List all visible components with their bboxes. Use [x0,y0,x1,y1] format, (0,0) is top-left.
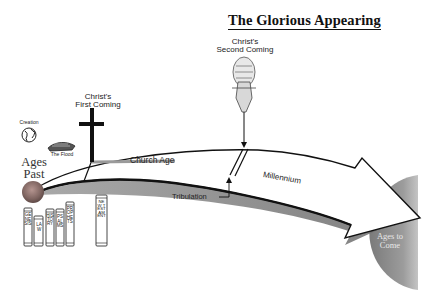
creation-label: Creation [14,120,44,125]
church-age-label: Church Age [130,155,174,165]
ages-past-line-2: Past [18,168,50,180]
book-prophets: PROPHETS [66,207,74,225]
book-history: HISTORY [46,214,54,227]
globe-icon [22,128,36,142]
ages-past-sphere [22,181,44,203]
book-genesis: GENESIS [24,213,32,227]
ark-icon [48,142,75,151]
book-psalms: PSALMS [56,215,64,229]
ages-to-come-line-2: Come [360,241,420,250]
first-coming-label: Christ's First Coming [70,93,126,110]
diagram-canvas: GENESIS LAW HISTORY PSALMS PROPHETS NEW … [0,0,439,291]
tribulation-label: Tribulation [172,192,207,201]
second-coming-label: Christ's Second Coming [208,38,282,55]
ages-to-come-label: Ages to Come [360,232,420,250]
first-coming-line-2: First Coming [70,101,126,109]
second-coming-line-2: Second Coming [208,46,282,54]
book-new-testament: NEW TESTAMENT [97,200,106,218]
cross-icon [79,108,104,162]
diagram-title: The Glorious Appearing [228,12,381,30]
christ-figure-icon [232,57,256,148]
ages-past-label: Ages Past [18,156,50,180]
book-law: LAW [35,222,43,232]
flood-label: The Flood [46,152,78,157]
